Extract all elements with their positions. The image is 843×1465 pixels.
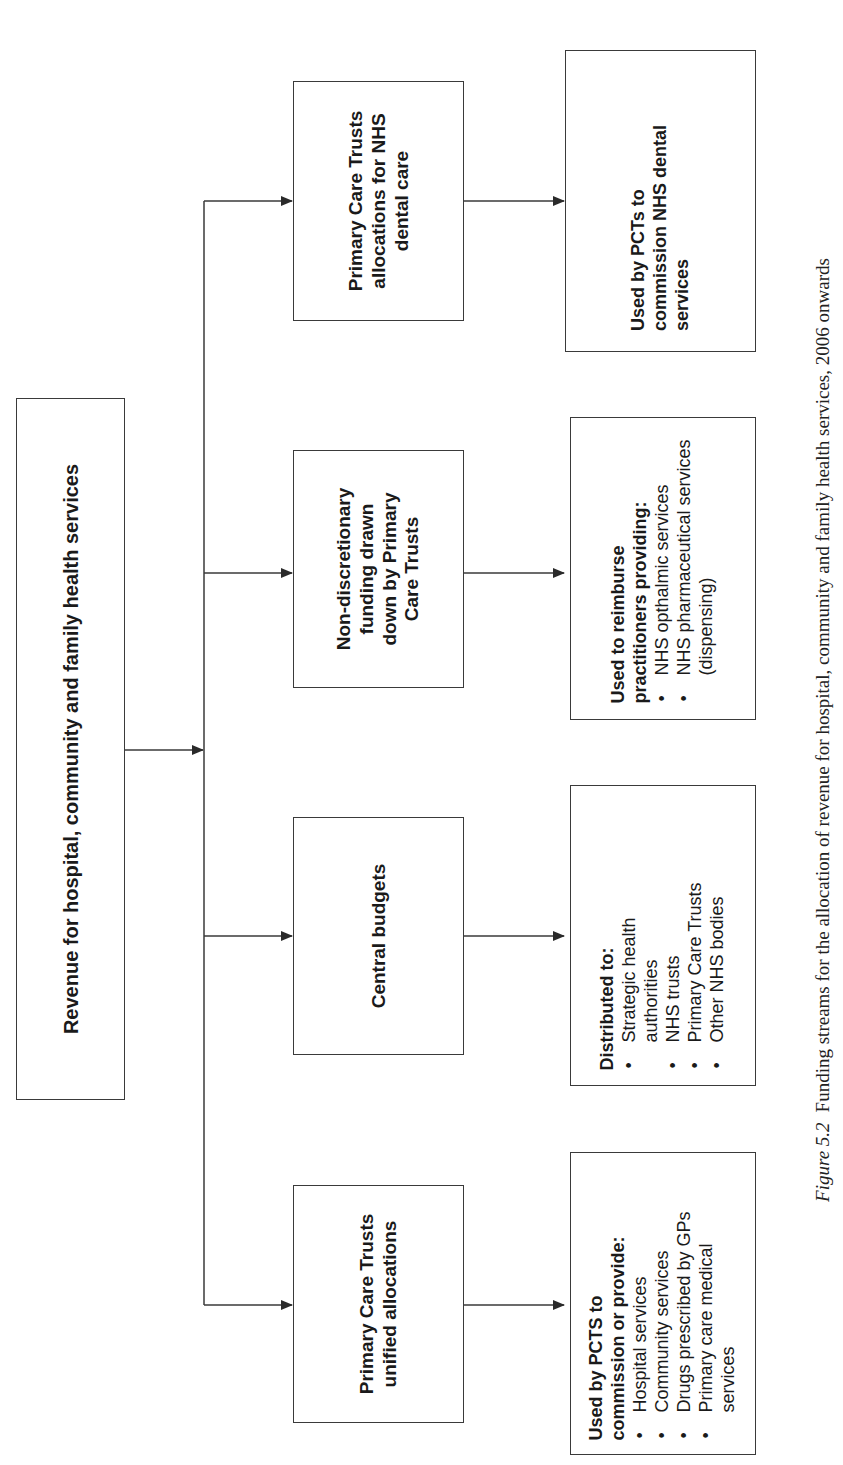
stream-central-budgets-box: Central budgets — [293, 817, 464, 1055]
outcome-item: NHS trusts — [663, 785, 685, 1070]
stream-dental-allocations-box: Primary Care Trusts allocations for NHS … — [293, 81, 464, 321]
outcome-commission-provide-box: Used by PCTS to commission or provide: H… — [570, 1152, 756, 1455]
figure-label: Figure 5.2 — [812, 1122, 833, 1202]
outcome-dental-services-text: Used by PCTs to commission NHS dental se… — [628, 51, 694, 331]
outcome-item: Drugs prescribed by GPs — [674, 1202, 696, 1440]
root-revenue-label: Revenue for hospital, community and fami… — [59, 404, 83, 1094]
outcome-item: Primary care medical services — [696, 1192, 740, 1440]
figure-caption-text: Funding streams for the allocation of re… — [812, 258, 833, 1112]
outcome-item: NHS opthalmic services — [652, 418, 674, 703]
outcome-item: Strategic health authorities — [619, 862, 663, 1070]
stream-non-discretionary-label: Non-discretionary funding drawn down by … — [333, 454, 424, 684]
outcome-item: Community services — [652, 1155, 674, 1440]
stream-unified-allocations-box: Primary Care Trusts unified allocations — [293, 1185, 464, 1423]
root-revenue-box: Revenue for hospital, community and fami… — [16, 398, 125, 1100]
outcome-distributed-box: Distributed to: Strategic health authori… — [570, 785, 756, 1086]
outcome-commission-provide-text: Used by PCTS to commission or provide: H… — [586, 1155, 740, 1440]
outcome-item: Other NHS bodies — [707, 785, 729, 1070]
outcome-dental-services-box: Used by PCTs to commission NHS dental se… — [565, 50, 756, 352]
stream-central-budgets-label: Central budgets — [367, 821, 390, 1051]
outcome-item: Primary Care Trusts — [685, 785, 707, 1070]
stream-dental-allocations-label: Primary Care Trusts allocations for NHS … — [344, 86, 412, 316]
outcome-distributed-text: Distributed to: Strategic health authori… — [597, 785, 729, 1070]
outcome-reimburse-box: Used to reimburse practitioners providin… — [570, 417, 756, 720]
figure-caption: Figure 5.2Funding streams for the alloca… — [812, 258, 834, 1202]
outcome-reimburse-text: Used to reimburse practitioners providin… — [608, 418, 718, 703]
outcome-item: NHS pharmaceutical services (dispensing) — [674, 418, 718, 703]
outcome-item: Hospital services — [630, 1155, 652, 1440]
stream-unified-allocations-label: Primary Care Trusts unified allocations — [356, 1189, 402, 1419]
stream-non-discretionary-box: Non-discretionary funding drawn down by … — [293, 450, 464, 688]
